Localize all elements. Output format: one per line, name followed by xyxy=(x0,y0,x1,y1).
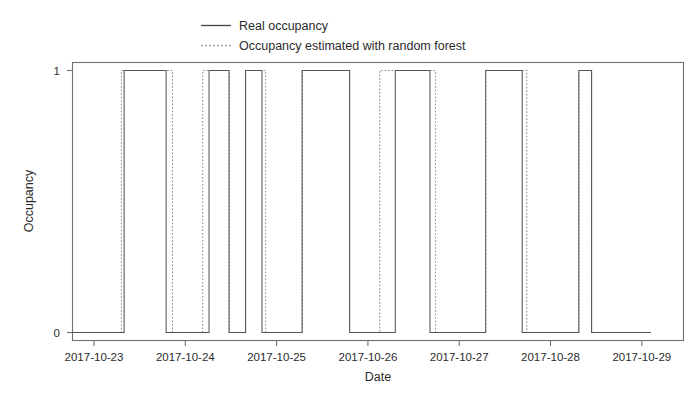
occupancy-chart: Real occupancy Occupancy estimated with … xyxy=(0,0,697,406)
x-tick-label-1: 2017-10-24 xyxy=(156,351,215,363)
y-axis-title: Occupancy xyxy=(22,169,36,232)
legend-label-real-occupancy: Real occupancy xyxy=(239,19,329,33)
y-tick-label-1: 1 xyxy=(54,65,60,77)
x-tick-label-0: 2017-10-23 xyxy=(65,351,124,363)
x-tick-label-3: 2017-10-26 xyxy=(338,351,397,363)
chart-background xyxy=(0,0,697,406)
x-tick-label-5: 2017-10-28 xyxy=(521,351,580,363)
x-axis-title: Date xyxy=(365,370,391,384)
x-tick-label-4: 2017-10-27 xyxy=(430,351,489,363)
chart-canvas: Real occupancy Occupancy estimated with … xyxy=(0,0,697,406)
y-tick-label-0: 0 xyxy=(54,327,60,339)
x-tick-label-6: 2017-10-29 xyxy=(612,351,671,363)
legend-label-estimated-occupancy: Occupancy estimated with random forest xyxy=(239,39,466,53)
x-tick-label-2: 2017-10-25 xyxy=(247,351,306,363)
